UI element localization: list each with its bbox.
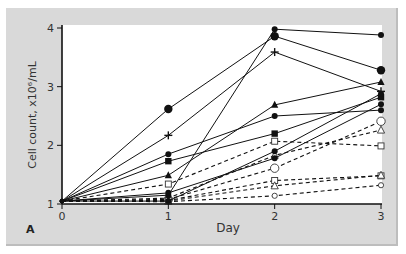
open-square-marker	[272, 138, 278, 144]
y-axis-label: Cell count, x10⁶/mL	[26, 60, 39, 168]
x-axis-label: Day	[216, 221, 240, 235]
y-tick-label: 2	[47, 139, 54, 152]
filled-circle-marker	[272, 113, 278, 119]
filled-circle-marker	[272, 26, 278, 32]
filled-circle-marker	[378, 107, 384, 113]
open-square-marker	[378, 143, 384, 149]
large-open-circle-marker	[377, 117, 385, 125]
large-open-circle-marker	[270, 164, 278, 172]
line-chart: 12340123 Cell count, x10⁶/mL Day A	[0, 0, 406, 254]
x-tick-label: 3	[378, 210, 385, 223]
filled-circle-marker	[378, 32, 384, 38]
filled-circle-marker	[272, 148, 278, 154]
filled-circle-marker	[165, 190, 171, 196]
large-filled-circle-marker	[164, 105, 172, 113]
small-open-circle-marker	[378, 183, 383, 188]
y-tick-label: 4	[47, 22, 54, 35]
y-tick-label: 1	[47, 198, 54, 211]
y-tick-label: 3	[47, 81, 54, 94]
x-tick-label: 1	[165, 210, 172, 223]
panel-letter: A	[26, 223, 35, 236]
x-tick-label: 0	[59, 210, 66, 223]
filled-square-marker	[271, 130, 277, 136]
filled-square-marker	[165, 158, 171, 164]
large-filled-circle-marker	[377, 66, 385, 74]
open-square-marker	[165, 181, 171, 187]
x-tick-label: 2	[271, 210, 278, 223]
filled-circle-marker	[378, 101, 384, 107]
filled-circle-marker	[165, 151, 171, 157]
filled-circle-marker	[272, 155, 278, 161]
filled-circle-marker	[378, 91, 384, 97]
filled-circle-marker	[165, 198, 171, 204]
plot-area	[62, 25, 382, 204]
small-open-circle-marker	[272, 193, 277, 198]
